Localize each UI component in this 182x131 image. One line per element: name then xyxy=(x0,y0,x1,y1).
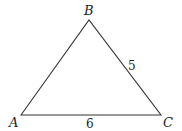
triangle-diagram: B A C 5 6 xyxy=(0,0,182,131)
triangle-abc xyxy=(21,20,161,115)
side-label-bc: 5 xyxy=(128,59,136,73)
side-label-ac: 6 xyxy=(86,117,94,131)
vertex-label-a: A xyxy=(8,115,18,130)
vertex-label-c: C xyxy=(163,115,173,130)
vertex-label-b: B xyxy=(83,3,94,18)
